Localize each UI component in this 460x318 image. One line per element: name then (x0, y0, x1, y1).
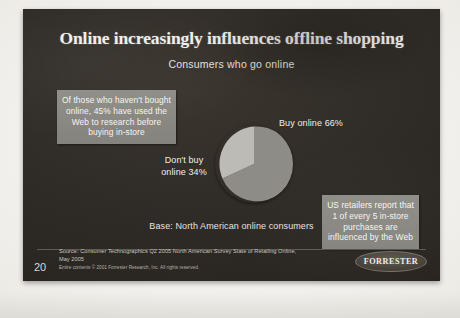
presentation-slide: Online increasingly influences offline s… (23, 9, 440, 281)
slide-footer: 20 Source: Consumer Technographics Q2 20… (23, 241, 440, 281)
pie-label-buy-online: Buy online 66% (279, 118, 343, 130)
page-shadow (0, 292, 460, 318)
pie-chart (215, 125, 293, 203)
slide-title: Online increasingly influences offline s… (23, 28, 440, 49)
pie-chart-svg (215, 125, 293, 203)
source-line-1: Source: Consumer Technographics Q2 2005 … (59, 248, 296, 254)
copyright-notice: Entire contents © 2001 Forrester Researc… (59, 265, 199, 270)
forrester-logo: FORRESTER (355, 251, 427, 272)
pie-label-dont-buy-online: Don't buy online 34% (156, 155, 212, 179)
scanned-page: Online increasingly influences offline s… (0, 0, 460, 318)
slide-subtitle: Consumers who go online (23, 58, 440, 70)
callout-box-left: Of those who haven't bought online, 45% … (57, 90, 176, 144)
chart-base-note: Base: North American online consumers (23, 221, 440, 231)
slide-page-number: 20 (34, 261, 46, 273)
source-line-2: May 2005 (59, 256, 84, 262)
forrester-logo-text: FORRESTER (364, 257, 419, 266)
